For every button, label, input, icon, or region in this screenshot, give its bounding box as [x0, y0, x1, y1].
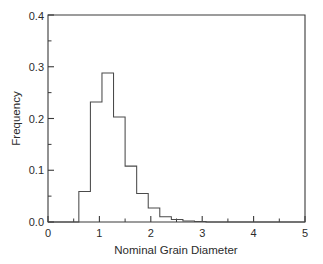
- y-tick-label-4: 0.4: [29, 10, 44, 22]
- x-tick-label-0: 0: [45, 227, 51, 239]
- chart-container: 0.0 0.1 0.2 0.3 0.4 0 1 2 3 4 5 Nominal …: [0, 0, 323, 264]
- y-tick-label-2: 0.2: [29, 113, 44, 125]
- y-axis-title: Frequency: [10, 91, 22, 146]
- x-tick-label-5: 5: [302, 227, 308, 239]
- x-tick-label-1: 1: [96, 227, 102, 239]
- x-tick-label-4: 4: [251, 227, 257, 239]
- x-axis-title: Nominal Grain Diameter: [114, 244, 238, 256]
- y-tick-label-1: 0.1: [29, 164, 44, 176]
- y-tick-label-3: 0.3: [29, 61, 44, 73]
- y-tick-label-0: 0.0: [29, 216, 44, 228]
- x-tick-label-2: 2: [148, 227, 154, 239]
- histogram-chart: 0.0 0.1 0.2 0.3 0.4 0 1 2 3 4 5 Nominal …: [0, 0, 323, 264]
- x-tick-label-3: 3: [199, 227, 205, 239]
